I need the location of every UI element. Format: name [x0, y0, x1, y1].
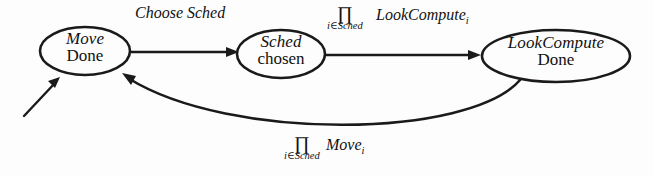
product-operator-subscript-2: i∈Sched	[284, 151, 320, 162]
edge-label-move-term-index: i	[362, 145, 365, 156]
start-arrow-head	[48, 77, 60, 88]
product-operator-subscript: i∈Sched	[327, 21, 363, 32]
edge-label-choose-sched: Choose Sched	[135, 4, 225, 22]
lookcompute-to-move-shaft	[128, 78, 520, 125]
edge-lookcompute-to-move	[122, 73, 520, 125]
edge-label-lookcompute-term: LookComputei	[376, 6, 469, 26]
edge-label-lookcompute-term-index: i	[466, 15, 469, 26]
edge-label-lookcompute-term-text: LookCompute	[376, 6, 466, 23]
edge-label-move-term: Movei	[326, 136, 364, 156]
node-sched-chosen[interactable]	[237, 30, 325, 78]
edge-sched-to-lookcompute	[325, 50, 481, 60]
lookcompute-to-move-head	[122, 73, 136, 85]
edge-label-move-term-text: Move	[326, 136, 362, 153]
node-lookcompute-done[interactable]	[482, 30, 630, 82]
edge-start-arrow	[24, 77, 60, 116]
edge-label-lookcompute-operator: ∏ i∈Sched	[327, 6, 363, 32]
edge-label-move-operator: ∏ i∈Sched	[284, 136, 320, 162]
node-move-done[interactable]	[40, 27, 130, 75]
start-arrow-shaft	[24, 83, 55, 116]
sched-to-lookcompute-head	[468, 50, 481, 60]
diagram-canvas: Move Done Sched chosen LookCompute Done …	[0, 0, 653, 176]
edge-move-to-sched	[131, 47, 239, 57]
